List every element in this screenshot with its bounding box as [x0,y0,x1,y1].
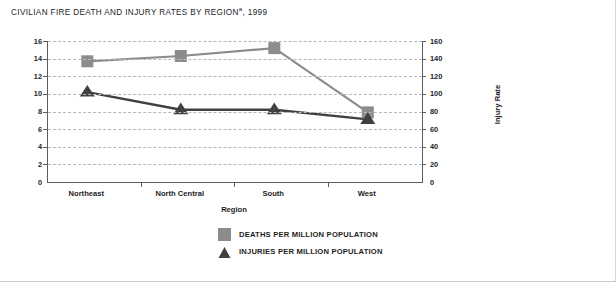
legend-label-injuries: INJURIES PER MILLION POPULATION [239,247,383,256]
y-axis-left-tickmark [43,164,47,165]
y-axis-right-tick-label: 140 [430,55,454,62]
chart-figure: CIVILIAN FIRE DEATH AND INJURY RATES BY … [0,0,616,282]
y-axis-right-tick-label: 20 [430,161,454,168]
y-axis-left-tick-label: 14 [20,55,42,62]
plot-area [47,41,423,183]
y-axis-left-tick-label: 16 [20,38,42,45]
gridline [48,112,422,113]
x-axis-tickmark [234,183,235,187]
y-axis-left-tickmark [43,112,47,113]
y-axis-right-tick-label: 100 [430,90,454,97]
gridline [48,129,422,130]
y-axis-right-tickmark [422,147,426,148]
y-axis-left-tick-label: 0 [20,179,42,186]
legend-item-deaths: DEATHS PER MILLION POPULATION [218,226,383,243]
y-axis-right-tickmark [422,41,426,42]
chart-title-year: , 1999 [243,8,268,17]
y-axis-left-tick-label: 12 [20,73,42,80]
y-axis-left-tickmark [43,76,47,77]
y-axis-right-tick-label: 160 [430,38,454,45]
y-axis-right-tickmark [422,76,426,77]
x-axis-tick-label: West [322,189,412,198]
triangle-glyph [218,246,231,259]
injuries-series-line [87,92,368,119]
y-axis-right-tickmark [422,112,426,113]
deaths-data-point [268,42,280,54]
y-axis-right-tick-label: 120 [430,73,454,80]
y-axis-left-tickmark [43,59,47,60]
y-axis-left-tickmark [43,94,47,95]
deaths-data-point [175,50,187,62]
gridline [48,59,422,60]
y-axis-right-tickmark [422,129,426,130]
x-axis-tickmark [141,183,142,187]
square-marker-icon [218,228,231,241]
y-axis-left-tick-label: 8 [20,108,42,115]
x-axis-tick-label: North Central [135,189,225,198]
y-axis-right-tickmark [422,164,426,165]
legend-item-injuries: INJURIES PER MILLION POPULATION [218,243,383,260]
x-axis-title: Region [47,205,421,214]
gridline [48,94,422,95]
y-axis-right-tick-label: 0 [430,179,454,186]
y-axis-right-tickmark [422,59,426,60]
legend-label-deaths: DEATHS PER MILLION POPULATION [239,230,378,239]
x-axis-tick-label: South [228,189,318,198]
chart-legend: DEATHS PER MILLION POPULATION INJURIES P… [218,226,383,260]
y-axis-right-title: Injury Rate [493,60,502,150]
gridline [48,41,422,42]
y-axis-right-tick-label: 80 [430,108,454,115]
y-axis-left-tick-label: 2 [20,161,42,168]
y-axis-right-tick-label: 60 [430,126,454,133]
y-axis-left-tick-label: 6 [20,126,42,133]
y-axis-right-tickmark [422,94,426,95]
triangle-marker-icon [218,245,231,258]
y-axis-left-tick-label: 4 [20,143,42,150]
x-axis-tick-label: Northeast [41,189,131,198]
y-axis-left-tickmark [43,41,47,42]
gridline [48,147,422,148]
chart-title: CIVILIAN FIRE DEATH AND INJURY RATES BY … [11,8,267,17]
chart-title-main: CIVILIAN FIRE DEATH AND INJURY RATES BY … [11,8,239,17]
gridline [48,76,422,77]
deaths-data-point [81,55,93,67]
y-axis-right-tick-label: 40 [430,143,454,150]
y-axis-left-tickmark [43,129,47,130]
x-axis-tickmark [328,183,329,187]
injuries-series-markers [80,85,376,124]
y-axis-left-tick-label: 10 [20,90,42,97]
gridline [48,164,422,165]
y-axis-left-tickmark [43,147,47,148]
deaths-series-markers [81,42,374,118]
